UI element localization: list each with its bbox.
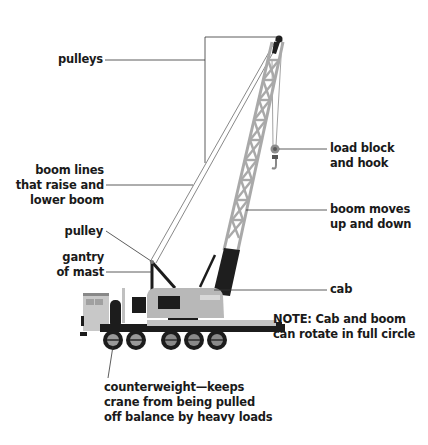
boom-tip-sheave (276, 36, 283, 43)
label-pulleys: pulleys (58, 52, 103, 67)
load-block-and-hook (271, 145, 280, 169)
wheel (126, 330, 146, 350)
wheels (103, 330, 227, 350)
label-load-block-and-hook: load block and hook (330, 141, 394, 171)
note-rotation: NOTE: Cab and boom can rotate in full ci… (273, 312, 415, 342)
label-boom-moves: boom moves up and down (330, 202, 411, 232)
label-gantry-of-mast: gantry of mast (56, 250, 104, 280)
gantry-of-mast (152, 255, 215, 290)
label-boom-lines: boom lines that raise and lower boom (16, 163, 104, 208)
boom (213, 36, 283, 297)
crane-diagram: pulleys boom lines that raise and lower … (0, 0, 428, 445)
label-counterweight: counterweight—keeps crane from being pul… (104, 380, 272, 425)
wheel (161, 330, 181, 350)
label-cab: cab (330, 282, 352, 297)
wheel (184, 330, 204, 350)
label-pulley: pulley (65, 224, 103, 239)
wheel (207, 330, 227, 350)
truck-carrier (80, 288, 285, 336)
